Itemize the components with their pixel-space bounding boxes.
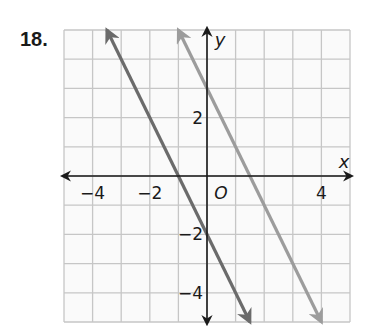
origin-label: O <box>214 183 227 203</box>
coordinate-plane: −4−242−2−4Oxy <box>0 0 371 329</box>
x-tick-label: −4 <box>80 183 105 203</box>
y-tick-label: 2 <box>192 108 203 128</box>
x-axis-label: x <box>338 151 350 172</box>
x-tick-label: 4 <box>316 183 327 203</box>
x-tick-label: −2 <box>137 183 162 203</box>
y-tick-label: −2 <box>178 224 203 244</box>
y-axis-label: y <box>214 29 226 50</box>
y-tick-label: −4 <box>178 283 203 303</box>
